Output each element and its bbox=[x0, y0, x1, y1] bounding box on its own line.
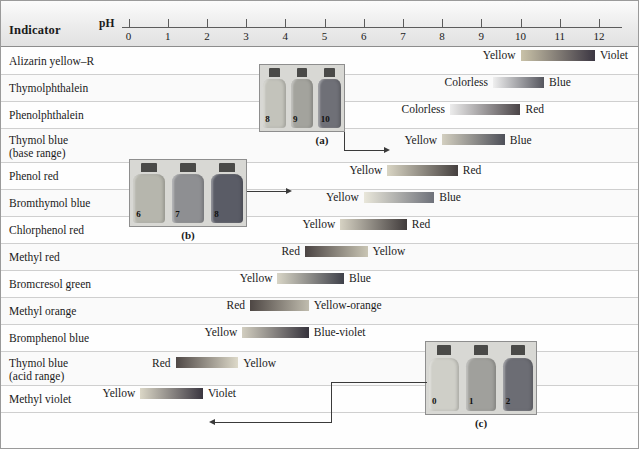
ph-axis-line bbox=[122, 27, 622, 28]
base-color-label: Yellow-orange bbox=[314, 299, 382, 311]
acid-color-label: Red bbox=[227, 299, 246, 311]
base-color-label: Yellow bbox=[243, 357, 276, 369]
indicator-name: Methyl orange bbox=[9, 305, 76, 318]
leader-c-horizontal-bottom bbox=[215, 422, 332, 423]
indicator-name-line1: Methyl orange bbox=[9, 305, 76, 317]
ph-tick-mark-10 bbox=[521, 19, 522, 28]
indicator-name: Thymolphthalein bbox=[9, 82, 88, 95]
ph-tick-label-10: 10 bbox=[515, 30, 526, 42]
bottle-cap bbox=[511, 345, 525, 355]
bottle-ph-label: 9 bbox=[293, 114, 298, 124]
color-transition-bar bbox=[340, 219, 407, 230]
indicator-bottle: 2 bbox=[503, 345, 533, 411]
color-transition-bar bbox=[250, 300, 309, 311]
color-transition-bar bbox=[493, 77, 544, 88]
chart-header: Indicator pH 0123456789101112 bbox=[1, 1, 638, 47]
indicator-name-line1: Thymol blue bbox=[9, 357, 68, 369]
color-transition-bar bbox=[387, 165, 458, 176]
indicator-row: Bromcresol greenYellowBlue bbox=[1, 271, 638, 298]
base-color-label: Blue bbox=[549, 76, 571, 88]
base-color-label: Blue-violet bbox=[314, 326, 366, 338]
ph-tick-mark-4 bbox=[285, 19, 286, 28]
indicator-row: Thymol blue(acid range)RedYellow bbox=[1, 352, 638, 386]
indicator-bottle: 8 bbox=[211, 163, 243, 223]
acid-color-label: Yellow bbox=[326, 191, 359, 203]
acid-color-label: Yellow bbox=[404, 134, 437, 146]
indicator-name: Methyl violet bbox=[9, 393, 71, 406]
indicator-bottle: 9 bbox=[291, 68, 314, 128]
indicator-name-line1: Thymol blue bbox=[9, 134, 68, 146]
acid-color-label: Colorless bbox=[445, 76, 488, 88]
ph-indicator-chart: Indicator pH 0123456789101112 Alizarin y… bbox=[0, 0, 639, 449]
ph-tick-mark-5 bbox=[325, 19, 326, 28]
acid-color-label: Yellow bbox=[204, 326, 237, 338]
indicator-bottle: 0 bbox=[429, 345, 459, 411]
indicator-row: Methyl violetYellowViolet bbox=[1, 386, 638, 413]
bottle-cap bbox=[474, 345, 488, 355]
ph-tick-label-11: 11 bbox=[554, 30, 565, 42]
color-transition-bar bbox=[521, 50, 595, 61]
ph-tick-label-1: 1 bbox=[165, 30, 171, 42]
bottle-ph-label: 6 bbox=[136, 209, 141, 219]
color-transition-bar bbox=[140, 388, 203, 399]
indicator-name: Chlorphenol red bbox=[9, 224, 84, 237]
leader-c-arrowhead bbox=[209, 419, 215, 425]
ph-tick-mark-3 bbox=[246, 19, 247, 28]
ph-tick-mark-9 bbox=[481, 19, 482, 28]
bottle-cap bbox=[269, 68, 280, 77]
photo-inset-c-caption: (c) bbox=[461, 417, 501, 429]
ph-tick-label-9: 9 bbox=[479, 30, 485, 42]
indicator-bottle: 1 bbox=[466, 345, 496, 411]
color-transition-bar bbox=[450, 104, 521, 115]
ph-tick-mark-2 bbox=[207, 19, 208, 28]
color-transition-bar bbox=[364, 192, 435, 203]
indicator-bottle: 8 bbox=[263, 68, 286, 128]
indicator-name: Bromphenol blue bbox=[9, 332, 89, 345]
indicator-row: Chlorphenol redYellowRed bbox=[1, 217, 638, 244]
base-color-label: Blue bbox=[510, 134, 532, 146]
photo-inset-a: 8910 bbox=[259, 64, 345, 132]
leader-a-vertical bbox=[344, 132, 345, 151]
ph-tick-mark-8 bbox=[442, 19, 443, 28]
leader-c-vertical bbox=[331, 382, 332, 423]
acid-color-label: Colorless bbox=[402, 103, 445, 115]
ph-tick-mark-6 bbox=[364, 19, 365, 28]
color-transition-bar bbox=[305, 246, 368, 257]
acid-color-label: Yellow bbox=[103, 387, 136, 399]
bottle-cap bbox=[219, 163, 234, 172]
bottle-cap bbox=[297, 68, 308, 77]
bottle-ph-label: 0 bbox=[432, 396, 437, 406]
indicator-name: Phenol red bbox=[9, 170, 59, 183]
ph-tick-mark-12 bbox=[599, 19, 600, 28]
leader-b-horizontal bbox=[247, 191, 287, 192]
bottle-cap bbox=[437, 345, 451, 355]
color-transition-bar bbox=[442, 134, 505, 145]
bottle-cap bbox=[180, 163, 195, 172]
indicator-row: Methyl orangeRedYellow-orange bbox=[1, 298, 638, 325]
photo-inset-b-caption: (b) bbox=[168, 229, 208, 241]
indicator-name: Thymol blue(base range) bbox=[9, 134, 68, 160]
bottle-ph-label: 1 bbox=[469, 396, 474, 406]
ph-tick-label-2: 2 bbox=[204, 30, 210, 42]
ph-tick-mark-1 bbox=[168, 19, 169, 28]
ph-tick-mark-0 bbox=[129, 19, 130, 28]
base-color-label: Violet bbox=[208, 387, 236, 399]
acid-color-label: Yellow bbox=[302, 218, 335, 230]
indicator-name-line2: (base range) bbox=[9, 147, 68, 160]
indicator-name-line1: Methyl red bbox=[9, 251, 60, 263]
indicator-row: Bromthymol blueYellowBlue bbox=[1, 190, 638, 217]
ph-tick-label-12: 12 bbox=[593, 30, 604, 42]
acid-color-label: Yellow bbox=[350, 164, 383, 176]
bottle-ph-label: 10 bbox=[321, 114, 330, 124]
photo-inset-c: 012 bbox=[425, 341, 537, 415]
leader-c-horizontal-top bbox=[331, 382, 427, 383]
indicator-column-header: Indicator bbox=[9, 23, 61, 38]
indicator-name-line1: Phenol red bbox=[9, 170, 59, 182]
acid-color-label: Yellow bbox=[483, 49, 516, 61]
indicator-name-line1: Chlorphenol red bbox=[9, 224, 84, 236]
leader-a-arrowhead bbox=[384, 147, 390, 153]
indicator-name-line1: Phenolphthalein bbox=[9, 109, 84, 121]
bottle-ph-label: 7 bbox=[175, 209, 180, 219]
indicator-name-line1: Methyl violet bbox=[9, 393, 71, 405]
bottle-ph-label: 2 bbox=[506, 396, 511, 406]
